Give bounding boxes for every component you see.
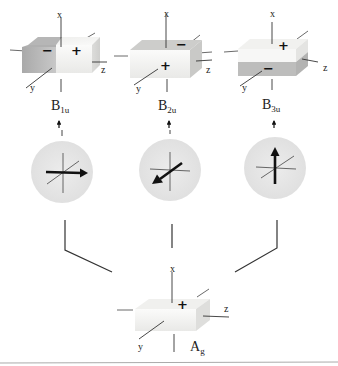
b1u-symbol-sub: 1u <box>60 105 69 115</box>
b3u-vector-circle <box>244 137 306 199</box>
ag-axis-z-label: z <box>224 304 228 314</box>
ag-axis-y-label: y <box>138 342 143 352</box>
diagram-canvas: x y z − + B1u x y z − + B2u x y z + − B3… <box>0 0 338 366</box>
b1u-symmetry-label: B1u <box>51 99 69 115</box>
b3u-box <box>224 22 318 90</box>
b1u-box <box>10 18 107 92</box>
b2u-vector-circle <box>139 139 201 201</box>
ag-axis-x-label: x <box>170 264 175 274</box>
b1u-minus-sign: − <box>42 44 53 57</box>
b2u-symbol-main: B <box>158 98 167 113</box>
b2u-axis-y-label: y <box>136 84 141 94</box>
b3u-symbol-sub: 3u <box>271 104 280 114</box>
b3u-symbol-main: B <box>262 97 271 112</box>
b3u-axis-x-label: x <box>270 9 275 19</box>
b1u-axis-x-label: x <box>57 10 62 20</box>
b2u-plus-sign: + <box>160 59 171 72</box>
b2u-box <box>114 14 212 92</box>
up-arrows <box>59 121 274 128</box>
bottom-rule <box>0 362 338 363</box>
b1u-symbol-main: B <box>51 98 60 113</box>
b3u-axis-z-label: z <box>323 63 327 73</box>
b3u-minus-sign: − <box>263 62 274 75</box>
b3u-symmetry-label: B3u <box>262 98 280 114</box>
b1u-axis-z-label: z <box>101 65 105 75</box>
b2u-symbol-sub: 2u <box>167 105 176 115</box>
b2u-symmetry-label: B2u <box>158 99 176 115</box>
b1u-plus-sign: + <box>71 44 82 57</box>
b2u-minus-sign: − <box>176 38 187 51</box>
ag-symbol-sub: g <box>200 346 205 356</box>
b2u-axis-x-label: x <box>164 9 169 19</box>
ag-box <box>117 272 229 352</box>
b1u-axis-y-label: y <box>30 83 35 93</box>
ag-symmetry-label: Ag <box>190 340 205 356</box>
ag-symbol-main: A <box>190 339 200 354</box>
b3u-plus-sign: + <box>278 39 289 52</box>
b2u-axis-z-label: z <box>206 65 210 75</box>
ag-plus-sign: + <box>177 298 188 311</box>
b1u-vector-circle <box>31 141 93 203</box>
b3u-axis-y-label: y <box>242 83 247 93</box>
